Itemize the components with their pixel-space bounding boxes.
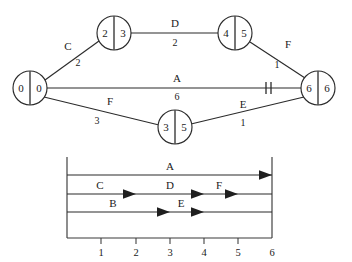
- edge-a-weight: 6: [175, 91, 180, 102]
- gantt-bar-a-label: A: [166, 160, 174, 172]
- edge-c-label: C: [64, 40, 71, 52]
- activity-network-figure: 0 0 2 3 4 5 3 5: [0, 0, 352, 262]
- gantt-bar-c-label: C: [96, 179, 103, 191]
- node-n0-left-value: 0: [18, 82, 24, 94]
- node-n3: 3 5: [158, 110, 192, 144]
- gantt-bar-d-label: D: [166, 179, 174, 191]
- edge-f-bottom-label: F: [107, 95, 113, 107]
- gantt-bar-c-arrow: [123, 189, 136, 199]
- node-n1-right-value: 3: [120, 27, 126, 39]
- edge-c-weight: 2: [76, 57, 81, 68]
- gantt-bar-d: D: [166, 179, 204, 199]
- gantt-tick-label-3: 3: [167, 247, 172, 258]
- gantt-tick-label-1: 1: [98, 247, 103, 258]
- gantt-bar-e-arrow: [191, 207, 204, 217]
- node-n0-right-value: 0: [36, 82, 42, 94]
- edge-d-weight: 2: [173, 37, 178, 48]
- gantt-bar-e: E: [178, 197, 204, 217]
- gantt-bar-f-label: F: [216, 179, 222, 191]
- node-n2-left-value: 4: [223, 27, 229, 39]
- node-n1-left-value: 2: [102, 27, 108, 39]
- gantt-bar-d-arrow: [191, 189, 204, 199]
- edge-f-bottom-line: [44, 97, 159, 125]
- node-n3-right-value: 5: [181, 121, 187, 133]
- gantt-bar-a: A: [166, 160, 272, 180]
- node-n4-left-value: 6: [306, 82, 312, 94]
- gantt-tick-label-4: 4: [201, 247, 207, 258]
- gantt-bar-a-arrow: [259, 170, 272, 180]
- gantt-bar-f: F: [216, 179, 238, 199]
- gantt-tick-label-5: 5: [235, 247, 240, 258]
- node-n3-left-value: 3: [163, 121, 169, 133]
- edge-d-label: D: [171, 17, 179, 29]
- gantt-axis-ticks: 1 2 3 4 5 6: [98, 238, 274, 258]
- gantt-bar-c: C: [96, 179, 136, 199]
- edge-f-top-weight: 1: [275, 59, 280, 70]
- edge-f-bottom-weight: 3: [95, 115, 100, 126]
- edge-e-line: [191, 97, 304, 124]
- gantt-bar-b: B: [109, 197, 170, 217]
- edge-e-label: E: [240, 98, 247, 110]
- edge-c-line: [45, 41, 99, 80]
- edge-e-weight: 1: [241, 117, 246, 128]
- edge-f-top-label: F: [285, 38, 291, 50]
- gantt-bar-b-arrow: [157, 207, 170, 217]
- node-n4: 6 6: [301, 71, 335, 105]
- node-n2-right-value: 5: [241, 27, 247, 39]
- gantt-tick-label-2: 2: [133, 247, 138, 258]
- node-n4-right-value: 6: [324, 82, 330, 94]
- gantt-bar-e-label: E: [178, 197, 185, 209]
- node-n1: 2 3: [97, 16, 131, 50]
- node-n2: 4 5: [218, 16, 252, 50]
- figure-container: 0 0 2 3 4 5 3 5: [0, 0, 352, 262]
- node-n0: 0 0: [13, 71, 47, 105]
- gantt-chart: A C D F B E: [67, 157, 275, 258]
- gantt-bar-b-label: B: [109, 197, 116, 209]
- gantt-tick-label-6: 6: [269, 247, 274, 258]
- gantt-bar-f-arrow: [225, 189, 238, 199]
- edge-a-label: A: [173, 72, 181, 84]
